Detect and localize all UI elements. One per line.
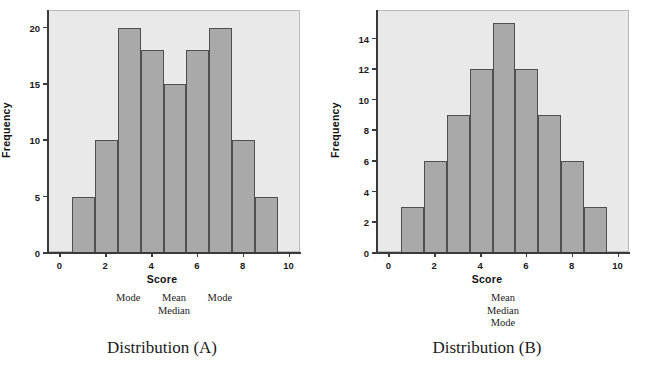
x-axis-tick-label: 6 xyxy=(194,260,199,271)
x-axis-tick-label: 4 xyxy=(148,260,153,271)
y-axis-tick xyxy=(43,252,47,254)
x-axis-tick-label: 2 xyxy=(432,260,437,271)
histogram-bar xyxy=(561,161,584,253)
x-axis-line xyxy=(47,252,301,254)
y-axis-tick xyxy=(372,68,376,70)
x-axis-tick xyxy=(289,253,291,257)
histogram-bar xyxy=(255,197,278,253)
histogram-bar xyxy=(538,115,561,253)
panel-caption-b: Distribution (B) xyxy=(325,338,649,358)
panel-caption-a: Distribution (A) xyxy=(0,338,324,358)
y-axis-tick xyxy=(43,83,47,85)
y-axis-tick-label: 20 xyxy=(14,22,40,33)
x-axis-tick xyxy=(59,253,61,257)
chart-distribution-b: 024681012140246810 Frequency Score xyxy=(325,8,649,268)
histogram-bar xyxy=(209,28,232,253)
y-axis-tick-label: 15 xyxy=(14,79,40,90)
x-axis-line xyxy=(376,252,630,254)
x-axis-tick-label: 6 xyxy=(523,260,528,271)
x-axis-tick xyxy=(618,253,620,257)
x-axis-tick xyxy=(434,253,436,257)
y-axis-tick-label: 10 xyxy=(14,135,40,146)
chart-distribution-a: 051015200246810 Frequency Score xyxy=(0,8,324,268)
x-axis-tick-label: 2 xyxy=(103,260,108,271)
histogram-bar xyxy=(95,140,118,253)
y-axis-tick xyxy=(372,252,376,254)
y-axis-tick xyxy=(372,99,376,101)
x-axis-tick-label: 10 xyxy=(283,260,294,271)
histogram-bar xyxy=(470,69,493,253)
stat-label: Mean xyxy=(158,292,190,305)
stat-annotations-b: MeanMedianMode xyxy=(325,292,649,338)
y-axis-line xyxy=(376,10,378,253)
histogram-bar xyxy=(164,84,187,253)
y-axis-tick-label: 10 xyxy=(343,94,369,105)
stat-label: Mode xyxy=(487,317,519,330)
panel-distribution-b: 024681012140246810 Frequency Score MeanM… xyxy=(325,0,649,370)
y-axis-line xyxy=(47,10,49,253)
y-axis-tick xyxy=(43,139,47,141)
y-axis-tick xyxy=(43,27,47,29)
x-axis-tick xyxy=(197,253,199,257)
histogram-bar xyxy=(141,50,164,253)
y-axis-tick-label: 8 xyxy=(343,125,369,136)
x-axis-tick-label: 0 xyxy=(386,260,391,271)
stat-label-group: Mode xyxy=(208,292,233,305)
y-axis-title-a: Frequency xyxy=(0,9,12,251)
y-axis-tick-label: 2 xyxy=(343,217,369,228)
stat-label-group: Mode xyxy=(116,292,141,305)
stat-label: Median xyxy=(487,305,519,318)
histogram-bar xyxy=(515,69,538,253)
histogram-bar xyxy=(72,197,95,253)
y-axis-tick xyxy=(43,196,47,198)
x-axis-tick-label: 10 xyxy=(612,260,623,271)
y-axis-title-b: Frequency xyxy=(329,9,341,251)
stat-annotations-a: ModeMeanMedianMode xyxy=(0,292,324,338)
x-axis-tick xyxy=(105,253,107,257)
x-axis-tick xyxy=(388,253,390,257)
x-axis-tick-label: 8 xyxy=(569,260,574,271)
y-axis-tick-label: 14 xyxy=(343,33,369,44)
y-axis-tick xyxy=(372,38,376,40)
panel-distribution-a: 051015200246810 Frequency Score ModeMean… xyxy=(0,0,324,370)
x-axis-tick xyxy=(572,253,574,257)
y-axis-tick-label: 6 xyxy=(343,156,369,167)
y-axis-tick xyxy=(372,221,376,223)
histogram-bar xyxy=(401,207,424,253)
histogram-bar xyxy=(493,23,516,253)
histogram-bar xyxy=(118,28,141,253)
x-axis-tick xyxy=(480,253,482,257)
x-axis-tick xyxy=(151,253,153,257)
plot-area-b xyxy=(377,10,629,252)
x-axis-tick-label: 8 xyxy=(240,260,245,271)
x-axis-title-a: Score xyxy=(0,273,324,285)
stat-label: Mode xyxy=(208,292,233,305)
histogram-bar xyxy=(447,115,470,253)
plot-area-a xyxy=(48,10,300,252)
stat-label: Mode xyxy=(116,292,141,305)
stat-label-group: MeanMedianMode xyxy=(487,292,519,330)
y-axis-tick xyxy=(372,191,376,193)
y-axis-tick xyxy=(372,160,376,162)
x-axis-tick xyxy=(243,253,245,257)
stat-label: Median xyxy=(158,305,190,318)
x-axis-title-b: Score xyxy=(325,273,649,285)
y-axis-tick-label: 12 xyxy=(343,64,369,75)
x-axis-tick-label: 4 xyxy=(477,260,482,271)
histogram-bar xyxy=(186,50,209,253)
y-axis-tick-label: 4 xyxy=(343,186,369,197)
stat-label: Mean xyxy=(487,292,519,305)
y-axis-tick-label: 5 xyxy=(14,191,40,202)
histogram-figure: 051015200246810 Frequency Score ModeMean… xyxy=(0,0,649,370)
histogram-bar xyxy=(232,140,255,253)
histogram-bar xyxy=(584,207,607,253)
x-axis-tick xyxy=(526,253,528,257)
x-axis-tick-label: 0 xyxy=(57,260,62,271)
stat-label-group: MeanMedian xyxy=(158,292,190,317)
y-axis-tick-label: 0 xyxy=(343,248,369,259)
y-axis-tick-label: 0 xyxy=(14,248,40,259)
y-axis-tick xyxy=(372,129,376,131)
histogram-bar xyxy=(424,161,447,253)
